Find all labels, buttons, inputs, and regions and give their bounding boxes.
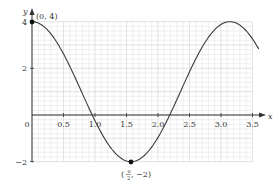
min-label-open: ( [121,170,124,179]
x-axis-arrow-icon [259,113,266,118]
chart: x y 0 0.51.01.52.02.53.03.5 42−2 (0, 4) … [0,0,276,192]
max-point-label: (0, 4) [36,12,58,21]
x-tick-label: 3.0 [215,120,228,129]
x-tick-label: 0.5 [57,120,70,129]
y-axis-label: y [22,7,28,16]
y-ticks: 42−2 [15,18,34,167]
grid [32,22,253,162]
min-label-den: 2 [127,175,130,181]
y-tick-label: 2 [22,64,27,73]
x-axis-label: x [268,112,273,121]
max-point [30,20,35,25]
min-point [129,160,134,165]
y-tick-label: 4 [22,18,27,27]
x-tick-label: 2.5 [183,120,196,129]
y-axis-arrow-icon [30,8,35,15]
x-tick-label: 1.5 [120,120,133,129]
min-label-rest: , −2) [131,170,151,179]
x-tick-label: 2.0 [152,120,165,129]
origin-label: 0 [24,120,29,129]
min-point-label: ( π 2 , −2) [121,168,151,181]
y-tick-label: −2 [15,158,27,167]
x-tick-label: 3.5 [246,120,259,129]
axes: x y 0 [22,7,273,162]
